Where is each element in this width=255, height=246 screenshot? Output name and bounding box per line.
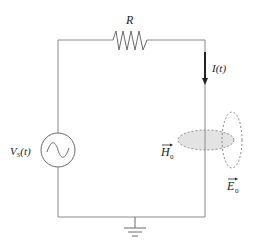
svg-text:0: 0 [170, 153, 174, 161]
ground-icon [124, 217, 146, 236]
ac-source-icon [41, 133, 75, 167]
svg-text:0: 0 [235, 187, 239, 195]
electric-field-label: E 0 [226, 178, 239, 196]
source-label: VS(t) [10, 145, 31, 159]
svg-text:E: E [226, 179, 235, 193]
current-label: I(t) [211, 62, 226, 75]
magnetic-field-ellipse [178, 130, 234, 150]
current-arrow-icon [202, 52, 208, 85]
magnetic-field-label: H 0 [160, 144, 174, 162]
circuit-diagram: R VS(t) I(t) H 0 E 0 [0, 0, 255, 246]
resistor-icon [113, 31, 147, 50]
resistor-label: R [125, 13, 134, 27]
